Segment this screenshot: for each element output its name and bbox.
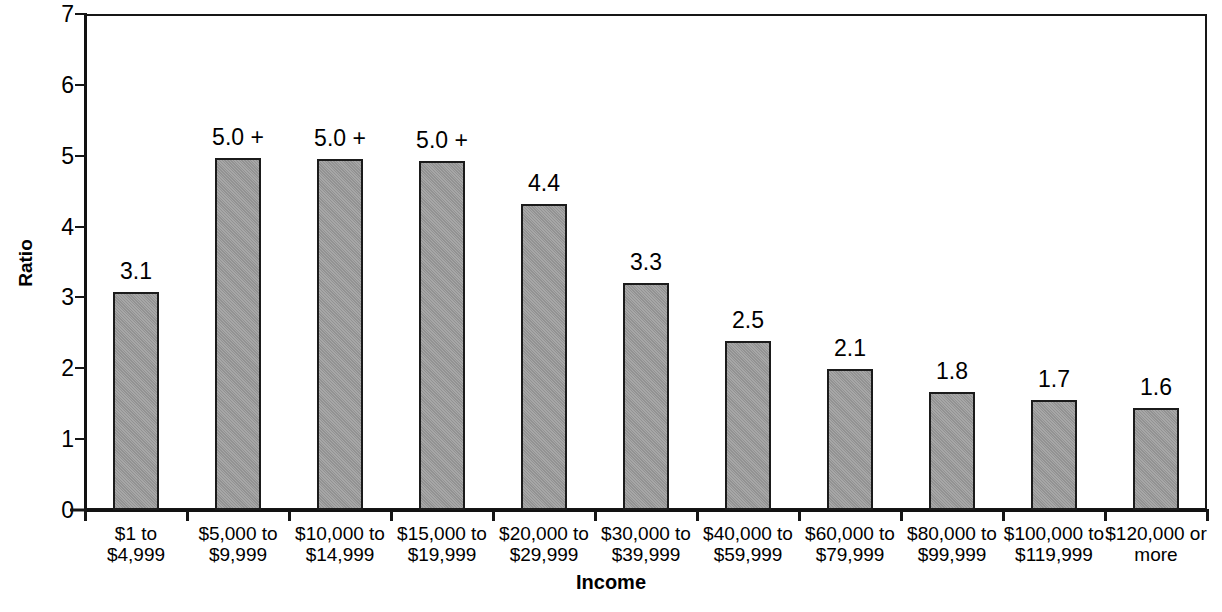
x-axis-category-label: $120,000 ormore [1105,523,1206,566]
bar [827,369,873,510]
x-axis-tick-mark [594,511,597,521]
y-axis-tick-mark [75,155,86,157]
x-axis-category-label-line: $40,000 to [703,523,793,544]
bar-value-label: 5.0 + [314,127,366,150]
bar [1133,408,1179,510]
bar [623,283,669,510]
x-axis-category-label-line: $29,999 [499,544,589,565]
y-axis-tick-mark [75,13,86,15]
x-axis-tick-mark [84,511,87,521]
x-axis-tick-mark [696,511,699,521]
x-axis-category-label: $40,000 to$59,999 [703,523,793,566]
x-axis-category-label-line: $5,000 to [198,523,277,544]
bar [113,292,159,510]
bar-value-label: 1.6 [1140,376,1172,399]
bar-value-label: 5.0 + [212,126,264,149]
x-axis-category-label: $1 to$4,999 [107,523,165,566]
x-axis-category-label-line: $120,000 or [1105,523,1206,544]
bar-value-label: 1.7 [1038,368,1070,391]
bar-value-label: 5.0 + [416,129,468,152]
x-axis-category-label: $80,000 to$99,999 [907,523,997,566]
bar-value-label: 2.1 [834,337,866,360]
x-axis-tick-mark [1206,511,1209,521]
x-axis-category-label-line: $14,999 [295,544,385,565]
x-axis-tick-mark [288,511,291,521]
x-axis-category-label-line: $59,999 [703,544,793,565]
x-axis-tick-mark [390,511,393,521]
x-axis-category-label-line: $39,999 [601,544,691,565]
x-axis-tick-mark [186,511,189,521]
x-axis-tick-mark [1002,511,1005,521]
bar [419,161,465,510]
x-axis-category-label-line: $99,999 [907,544,997,565]
x-axis-tick-mark [492,511,495,521]
x-axis-category-label: $100,000 to$119,999 [1004,523,1104,566]
x-axis-category-label-line: $15,000 to [397,523,487,544]
x-axis-title: Income [0,571,1222,594]
x-axis-category-label-line: $10,000 to [295,523,385,544]
bar-chart: Ratio 01234567 3.1$1 to$4,9995.0 +$5,000… [0,0,1222,612]
x-axis-tick-mark [1104,511,1107,521]
bar [725,341,771,510]
x-axis-category-label: $15,000 to$19,999 [397,523,487,566]
bar [521,204,567,510]
y-axis-tick-mark [75,367,86,369]
x-axis-category-label: $20,000 to$29,999 [499,523,589,566]
bar [215,158,261,510]
x-axis-category-label-line: more [1105,544,1206,565]
x-axis-category-label: $30,000 to$39,999 [601,523,691,566]
x-axis-category-label-line: $30,000 to [601,523,691,544]
bar [1031,400,1077,510]
x-axis-tick-mark [900,511,903,521]
x-axis-category-label-line: $119,999 [1004,544,1104,565]
bars-layer: 3.1$1 to$4,9995.0 +$5,000 to$9,9995.0 +$… [0,0,1222,612]
y-axis-tick-mark [75,84,86,86]
bar [317,159,363,510]
x-axis-category-label-line: $4,999 [107,544,165,565]
bar [929,392,975,510]
x-axis-category-label-line: $60,000 to [805,523,895,544]
y-axis-tick-mark [75,296,86,298]
x-axis-category-label-line: $9,999 [198,544,277,565]
y-axis-tick-mark [75,226,86,228]
x-axis-category-label-line: $20,000 to [499,523,589,544]
x-axis-category-label: $5,000 to$9,999 [198,523,277,566]
x-axis-category-label-line: $79,999 [805,544,895,565]
bar-value-label: 4.4 [528,172,560,195]
bar-value-label: 3.3 [630,251,662,274]
x-axis-category-label: $60,000 to$79,999 [805,523,895,566]
x-axis-tick-mark [798,511,801,521]
bar-value-label: 3.1 [120,260,152,283]
bar-value-label: 1.8 [936,360,968,383]
x-axis-category-label: $10,000 to$14,999 [295,523,385,566]
x-axis-category-label-line: $80,000 to [907,523,997,544]
y-axis-tick-mark [75,438,86,440]
x-axis-category-label-line: $1 to [107,523,165,544]
bar-value-label: 2.5 [732,309,764,332]
x-axis-category-label-line: $100,000 to [1004,523,1104,544]
x-axis-category-label-line: $19,999 [397,544,487,565]
